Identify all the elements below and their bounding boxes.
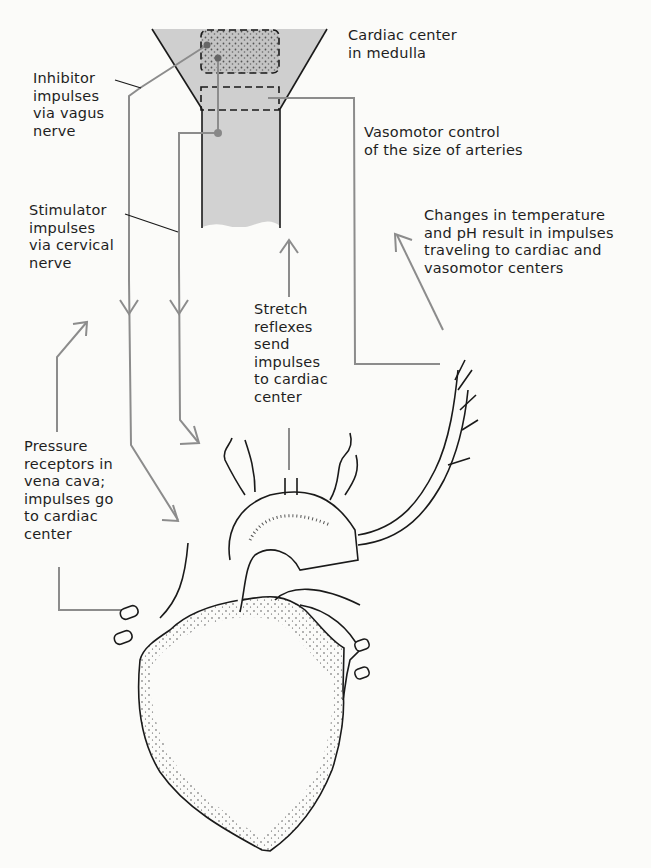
heart [113,360,478,851]
label-temperature-ph: Changes in temperature and pH result in … [424,207,614,277]
pulmonary-veins-right [354,638,371,680]
brachiocephalic-branch [224,438,255,495]
aortic-arch [229,492,358,612]
pressure-receptor-line [59,567,129,610]
arrowheads [73,234,412,521]
label-vasomotor-control: Vasomotor control of the size of arterie… [364,124,523,159]
label-stretch-reflexes: Stretch reflexes send impulses to cardia… [254,301,328,406]
carotid-branch-right [330,433,357,500]
spinal-cord [202,109,280,227]
cardiac-center [201,30,279,73]
vagus-nerve-line [129,45,207,520]
pressure-receptor-arrow-line [57,323,86,432]
superior-vena-cava [160,543,188,618]
label-inhibitor-impulses: Inhibitor impulses via vagus nerve [33,70,104,140]
label-pressure-receptors: Pressure receptors in vena cava; impulse… [24,438,114,543]
label-leader-lines [115,80,178,232]
label-stimulator-impulses: Stimulator impulses via cervical nerve [29,202,114,272]
subclavian-artery [358,370,468,545]
label-cardiac-center: Cardiac center in medulla [348,27,457,62]
